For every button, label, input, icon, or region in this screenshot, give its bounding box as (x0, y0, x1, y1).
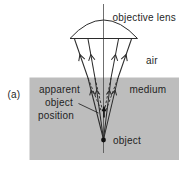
object-point (101, 138, 106, 143)
apparent-position-label-line3: position (38, 110, 74, 121)
object-label: object (113, 135, 141, 146)
air-rays (75, 39, 132, 78)
optics-refraction-diagram: objective lens air medium apparent objec… (0, 0, 192, 170)
figure-panel: objective lens air medium apparent objec… (0, 0, 192, 170)
light-ray (75, 39, 89, 78)
objective-lens-label: objective lens (113, 12, 176, 23)
light-ray (118, 39, 132, 78)
apparent-position-label-line1: apparent (39, 84, 80, 95)
panel-label: (a) (8, 89, 21, 100)
medium-label: medium (130, 84, 167, 95)
air-label: air (146, 55, 158, 66)
apparent-position-label-line2: object (45, 97, 73, 108)
